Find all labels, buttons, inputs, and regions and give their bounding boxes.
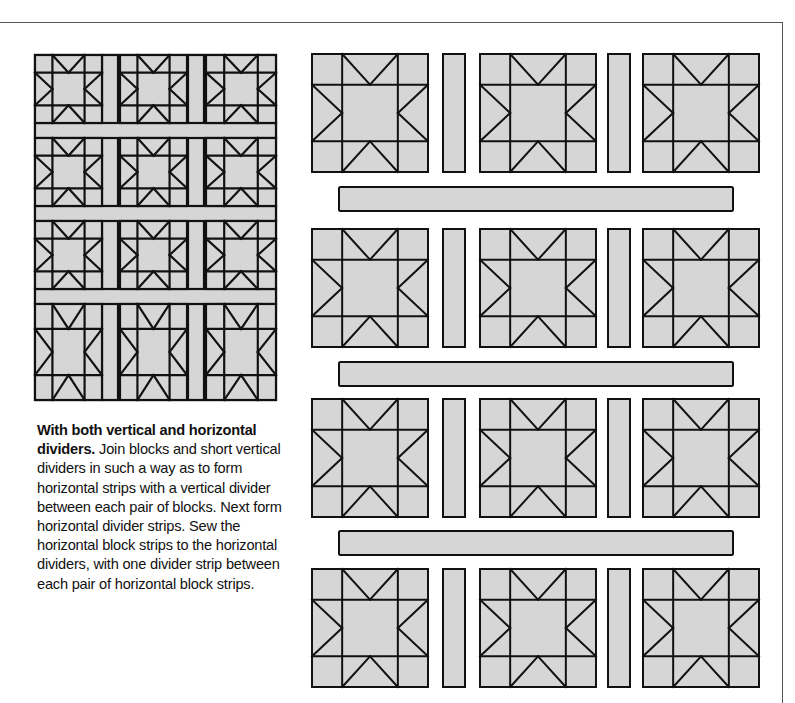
star-block [312, 229, 428, 347]
star-block [480, 229, 596, 347]
vertical-divider-strip [608, 399, 630, 517]
star-block [480, 399, 596, 517]
star-block [312, 54, 428, 172]
mini-horizontal-divider [35, 206, 276, 221]
mini-vertical-divider [102, 55, 118, 400]
vertical-divider-strip [608, 54, 630, 172]
star-block [120, 55, 187, 123]
vertical-divider-strip [443, 399, 465, 517]
mini-vertical-divider [188, 55, 204, 400]
caption: With both vertical and horizontal divide… [37, 421, 287, 594]
star-block [120, 138, 187, 206]
horizontal-divider-strip [339, 531, 733, 555]
mini-horizontal-divider [35, 123, 276, 138]
star-block [206, 55, 276, 123]
mini-horizontal-divider [35, 289, 276, 304]
vertical-divider-strip [608, 569, 630, 687]
vertical-divider-strip [443, 229, 465, 347]
frame-right-border [782, 22, 783, 703]
star-block [206, 221, 276, 289]
horizontal-divider-strip [339, 187, 733, 211]
horizontal-divider-strip [339, 362, 733, 386]
star-block [643, 229, 759, 347]
star-block [312, 399, 428, 517]
star-block [480, 569, 596, 687]
star-block [35, 138, 102, 206]
vertical-divider-strip [608, 229, 630, 347]
star-block [120, 221, 187, 289]
star-block [643, 54, 759, 172]
assembly-diagram [300, 45, 770, 695]
star-block [312, 569, 428, 687]
star-block [35, 304, 102, 400]
star-block [480, 54, 596, 172]
caption-body: Join blocks and short vertical dividers … [37, 441, 282, 591]
star-block [206, 304, 276, 400]
vertical-divider-strip [443, 569, 465, 687]
star-block [643, 569, 759, 687]
vertical-divider-strip [443, 54, 465, 172]
star-block [35, 221, 102, 289]
star-block [35, 55, 102, 123]
star-block [643, 399, 759, 517]
mini-quilt-diagram [30, 50, 282, 405]
star-block [120, 304, 187, 400]
star-block [206, 138, 276, 206]
frame-top-border [0, 22, 782, 23]
